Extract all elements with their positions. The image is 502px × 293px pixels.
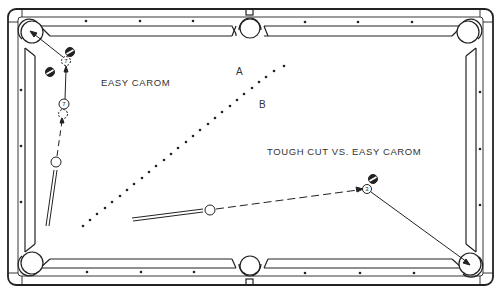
striped-ball-3 (369, 175, 378, 184)
pocket-top-right (457, 19, 482, 43)
pocket-bottom-left (18, 252, 43, 276)
pocket-top-side (239, 9, 261, 38)
point-a-label: A (236, 66, 243, 77)
tough-cut-label: TOUGH CUT VS. EASY CAROM (267, 146, 421, 157)
easy-carom-label: EASY CAROM (101, 77, 170, 88)
cue-stick-left (46, 170, 57, 226)
pool-table-diagram: 7 7 3 (0, 0, 502, 293)
pocket-bottom-side (239, 256, 261, 285)
point-b-label: B (259, 99, 266, 110)
pocket-bottom-right (459, 253, 483, 277)
ghost-ball-left (59, 110, 68, 119)
tough-cut-shot (132, 175, 470, 266)
cue-ball-left (51, 157, 61, 167)
cue-ball-right (205, 205, 215, 215)
cushion-top-left (40, 26, 236, 36)
striped-ball-2 (46, 68, 55, 77)
striped-ball-1 (66, 48, 75, 57)
easy-carom-shot (30, 31, 75, 226)
cue-stick-right (132, 209, 203, 221)
dotted-divider-line (82, 65, 286, 228)
